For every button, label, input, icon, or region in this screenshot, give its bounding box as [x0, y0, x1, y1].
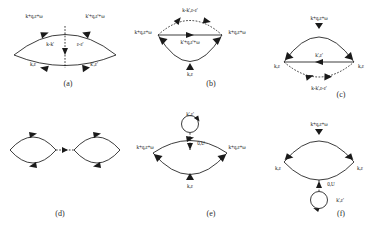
arrow-arc-right-c: [323, 73, 332, 81]
label-e-left: k+q,ε+ω: [136, 144, 153, 150]
label-c-top: k+q,ε+ω: [310, 15, 327, 21]
left-loop-bottom-d: [10, 150, 56, 163]
right-loop-bottom-d: [74, 150, 120, 163]
arrow-inner-c: [315, 59, 323, 65]
arrow-inner-b: [186, 32, 194, 38]
label-f-connector: 0,U: [327, 181, 334, 187]
panel-e-graphics: [125, 110, 255, 208]
label-e-right: k+q,ε+ω: [228, 144, 245, 150]
label-c-right: k,ε: [358, 63, 364, 69]
interaction-arc-c: [284, 62, 354, 77]
upper-fermion-line-f: [284, 141, 354, 162]
label-f-top: k+q,ε+ω: [310, 121, 327, 127]
label-e-connector: 0,U: [197, 140, 204, 146]
panel-b-graphics: [125, 0, 255, 95]
label-f-tadpole: k',ε': [336, 197, 343, 203]
label-b-inner: k'+q,ε'+ω: [181, 39, 200, 45]
interaction-arc-b: [158, 21, 222, 36]
lower-left-fermion-line-f: [284, 162, 319, 180]
arrow-arc-right-b: [202, 17, 212, 26]
label-b-bottom: k,ε: [187, 71, 193, 77]
label-e-bottom: k,ε: [187, 183, 193, 189]
caption-e: (e): [207, 209, 216, 218]
panel-d: k+q,ε+ω k,ε q,w k'+q,ε'+ω k',ε': [0, 118, 130, 208]
label-e-tadpole: k',ε': [186, 111, 193, 117]
arrow-outer-right-b: [212, 37, 222, 46]
label-b-left: k+q,ε+ω: [134, 29, 151, 35]
tadpole-loop-f: [311, 192, 328, 209]
arrow-upper-e: [186, 136, 194, 142]
arrow-upper-f: [315, 129, 323, 135]
right-loop-top-d: [74, 137, 120, 150]
caption-d: (d): [55, 209, 64, 218]
label-a-top-right: k'+q,ε'+ω: [86, 13, 105, 19]
label-c-arc-bottom: k-k',ε-ε': [311, 85, 326, 91]
label-b-right: k+q,ε+ω: [228, 29, 245, 35]
caption-f: (f): [337, 209, 345, 218]
arrow-interaction-a: [62, 48, 68, 55]
arrow-arc-left-b: [173, 17, 183, 26]
arrow-interaction-d: [62, 147, 68, 153]
arrow-outer-bottom-b: [186, 63, 194, 70]
arrow-outer-top-c: [315, 23, 323, 29]
label-a-bottom-right: k',ε': [90, 61, 97, 67]
label-a-top-left: k+q,ε+ω: [25, 13, 42, 19]
caption-a: (a): [64, 79, 73, 88]
panel-d-graphics: [0, 118, 130, 208]
label-f-right: k,ε: [357, 165, 363, 171]
arrow-lower-left-a: [39, 64, 48, 72]
panel-e: k',ε' 0,U k+q,ε+ω k+q,ε+ω k,ε: [125, 110, 255, 208]
panel-f: k+q,ε+ω k,ε k,ε 0,U k',ε': [254, 112, 384, 210]
feynman-diagram-figure: k+q,ε+ω k'+q,ε'+ω k-k' ε-ε' k,ε k',ε' (a…: [0, 0, 384, 237]
arrow-right-f: [345, 152, 355, 160]
arrow-tadpole-e: [194, 115, 201, 123]
lower-fermion-line-e: [153, 153, 227, 175]
label-c-left: k,ε: [274, 63, 280, 69]
arrow-upper-right-a: [81, 30, 91, 39]
label-a-center-left: k-k': [46, 41, 53, 47]
arrow-outer-left-b: [157, 37, 167, 46]
label-c-inner: k',ε': [315, 52, 322, 58]
panel-c: k+q,ε+ω k,ε k,ε k',ε' k-k',ε-ε': [254, 4, 384, 99]
label-a-center-right: ε-ε': [77, 41, 84, 47]
arrow-left-f: [283, 152, 293, 160]
lower-right-fermion-line-f: [319, 162, 354, 180]
left-loop-top-d: [10, 137, 56, 150]
caption-b: (b): [206, 79, 215, 88]
label-a-bottom-left: k,ε: [30, 61, 36, 67]
panel-b: k-k',ε-ε' k+q,ε+ω k+q,ε+ω k'+q,ε'+ω k,ε: [125, 0, 255, 95]
arrow-interaction-e: [187, 143, 193, 150]
outer-fermion-line-c: [284, 37, 354, 62]
label-f-left: k,ε: [275, 165, 281, 171]
arrow-interaction-f: [316, 181, 322, 188]
label-b-arc-top: k-k',ε-ε': [182, 7, 197, 13]
caption-c: (c): [337, 90, 346, 99]
